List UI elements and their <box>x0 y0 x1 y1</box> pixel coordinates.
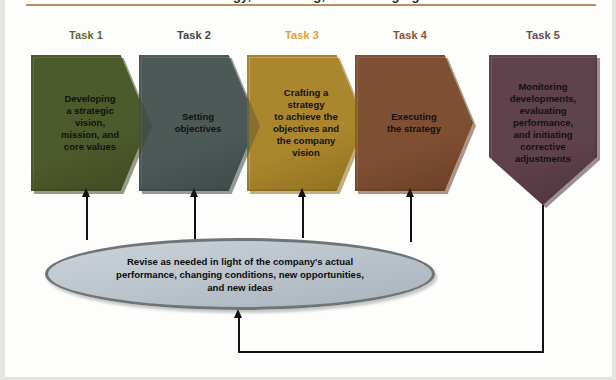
revise-ellipse: Revise as needed in light of the company… <box>45 238 435 310</box>
task-label-1: Task 1 <box>41 29 131 41</box>
arrow-shaft-to-task-1 <box>86 196 88 240</box>
arrow-head-to-task-1 <box>82 188 90 197</box>
page-edge-left <box>0 0 5 380</box>
task-shape-1-text: Developing a strategic vision, mission, … <box>53 93 127 153</box>
arrow-shaft-to-task-4 <box>410 196 412 242</box>
feedback-line-down <box>542 205 544 353</box>
feedback-line-up <box>238 318 240 353</box>
feedback-line-across <box>238 351 544 353</box>
arrow-shaft-to-task-2 <box>194 196 196 240</box>
task-shape-2-text: Setting objectives <box>167 111 229 135</box>
arrow-head-to-task-4 <box>406 188 414 197</box>
task-shape-4-text: Executing the strategy <box>379 111 449 135</box>
feedback-arrow-head <box>234 309 242 318</box>
page-edge-right <box>612 0 616 380</box>
task-label-2: Task 2 <box>149 29 239 41</box>
task-shape-3-text: Crafting a strategy to achieve the objec… <box>265 87 347 159</box>
task-label-4: Task 4 <box>365 29 455 41</box>
revise-ellipse-text: Revise as needed in light of the company… <box>90 255 390 294</box>
title-rule <box>26 4 596 6</box>
task-shape-1: Developing a strategic vision, mission, … <box>31 55 149 191</box>
task-shape-3: Crafting a strategy to achieve the objec… <box>247 55 365 191</box>
task-shape-4: Executing the strategy <box>355 55 473 191</box>
task-label-3: Task 3 <box>257 29 347 41</box>
arrow-shaft-to-task-3 <box>302 196 304 238</box>
arrow-head-to-task-2 <box>190 188 198 197</box>
task-shape-2: Setting objectives <box>139 55 257 191</box>
task-label-5: Task 5 <box>498 29 588 41</box>
task-shape-5: Monitoring developments, evaluating perf… <box>489 55 597 205</box>
strategy-process-diagram: strategy, evaluating, and managing Task … <box>0 0 616 380</box>
arrow-head-to-task-3 <box>298 188 306 197</box>
task-shape-5-text: Monitoring developments, evaluating perf… <box>502 81 585 165</box>
